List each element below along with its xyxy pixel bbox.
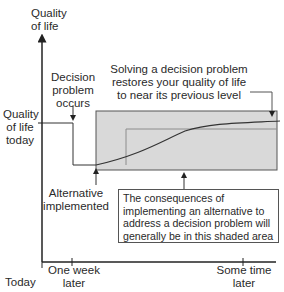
y-axis-label-line2: of life (31, 20, 67, 33)
one-week-line1: One week (46, 264, 102, 277)
solving-line3: to near its previous level (104, 89, 254, 102)
y-tick-label-today: Quality of life today (3, 108, 37, 147)
y-axis-label: Quality of life (31, 7, 67, 33)
x-tick-label-today: Today (5, 276, 36, 289)
decision-line1: Decision (46, 71, 100, 84)
solving-line1: Solving a decision problem (104, 63, 254, 76)
decision-problem-label: Decision problem occurs (46, 71, 100, 110)
y-tick-line2: of life (3, 121, 37, 134)
alternative-line2: implemented (38, 200, 114, 213)
consequences-box: The consequences of implementing an alte… (118, 189, 279, 243)
y-axis-label-line1: Quality (31, 7, 67, 20)
y-tick-line1: Quality (3, 108, 37, 121)
quality-drop-line (42, 123, 96, 165)
shaded-area (96, 111, 277, 170)
some-time-line1: Some time (213, 264, 275, 277)
alternative-line1: Alternative (38, 187, 114, 200)
decision-line3: occurs (46, 97, 100, 110)
alternative-label: Alternative implemented (38, 187, 114, 213)
solving-line2: restores your quality of life (104, 76, 254, 89)
decision-line2: problem (46, 84, 100, 97)
x-tick-label-some-time: Some time later (213, 264, 275, 290)
diagram-canvas (0, 0, 284, 292)
y-tick-line3: today (3, 134, 37, 147)
solving-label: Solving a decision problem restores your… (104, 63, 254, 102)
x-tick-label-one-week: One week later (46, 264, 102, 290)
some-time-line2: later (213, 277, 275, 290)
one-week-line2: later (46, 277, 102, 290)
